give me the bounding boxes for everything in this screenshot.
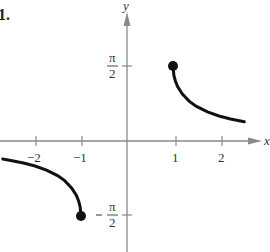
problem-number: 1. — [0, 6, 10, 23]
x-tick-label: −2 — [27, 150, 41, 165]
function-graph: 1. x y −2 −1 1 2 π 2 π 2 — [0, 0, 270, 252]
curve-branch — [173, 66, 244, 122]
y-tick-numerator: π — [109, 199, 116, 214]
x-tick-label: −1 — [73, 150, 87, 165]
x-axis-arrow-icon — [248, 138, 262, 145]
y-axis-label: y — [121, 0, 129, 13]
x-axis-label: x — [263, 133, 270, 148]
y-axis: y — [121, 0, 131, 252]
x-tick-label: 1 — [172, 150, 179, 165]
y-tick-numerator: π — [109, 50, 116, 65]
closed-endpoint-dot — [168, 61, 178, 71]
curve-branch — [3, 159, 81, 216]
x-axis: x — [0, 133, 270, 148]
y-tick-denominator: 2 — [109, 66, 116, 81]
y-tick-denominator: 2 — [109, 215, 116, 230]
x-tick-label: 2 — [218, 150, 225, 165]
y-axis-arrow-icon — [124, 12, 131, 26]
closed-endpoint-dot — [76, 211, 86, 221]
